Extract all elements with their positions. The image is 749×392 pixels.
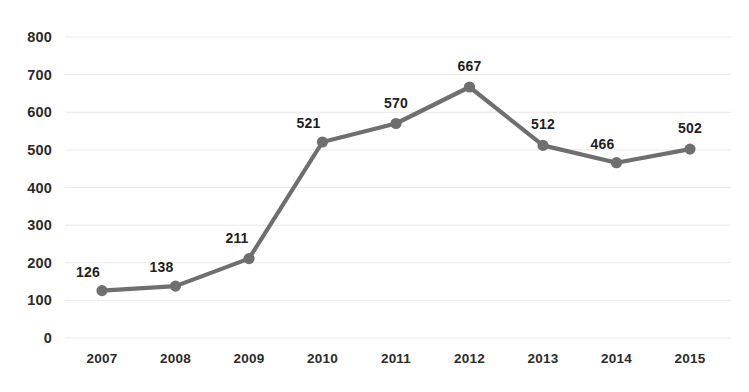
chart-plot-area xyxy=(0,0,749,392)
y-axis-tick-label: 100 xyxy=(0,293,52,308)
data-point-label: 570 xyxy=(370,96,422,110)
x-axis-tick-label: 2014 xyxy=(581,352,653,366)
gridlines xyxy=(65,37,731,338)
x-axis-tick-label: 2015 xyxy=(654,352,726,366)
x-axis-tick-label: 2012 xyxy=(434,352,506,366)
y-axis-tick-label: 600 xyxy=(0,105,52,120)
line-chart: 8007006005004003002001000 20072008200920… xyxy=(0,0,749,392)
data-point-marker xyxy=(170,281,181,292)
data-point-marker xyxy=(96,285,107,296)
data-point-marker xyxy=(537,140,548,151)
y-axis-tick-label: 0 xyxy=(0,331,52,346)
x-axis-tick-label: 2008 xyxy=(140,352,212,366)
y-axis-tick-label: 200 xyxy=(0,256,52,271)
data-point-marker xyxy=(684,144,695,155)
data-point-label: 667 xyxy=(444,59,496,73)
series-line xyxy=(102,87,690,291)
data-point-label: 466 xyxy=(577,137,629,151)
y-axis-tick-label: 700 xyxy=(0,68,52,83)
data-point-marker xyxy=(611,157,622,168)
data-point-label: 521 xyxy=(283,116,335,130)
data-point-label: 126 xyxy=(62,265,114,279)
y-axis-tick-label: 800 xyxy=(0,30,52,45)
x-axis-tick-label: 2007 xyxy=(66,352,138,366)
x-axis-tick-label: 2013 xyxy=(507,352,579,366)
y-axis-tick-label: 500 xyxy=(0,143,52,158)
data-point-label: 211 xyxy=(211,231,263,245)
data-point-marker xyxy=(390,118,401,129)
y-axis-tick-label: 400 xyxy=(0,181,52,196)
data-point-label: 138 xyxy=(136,260,188,274)
data-point-marker xyxy=(317,136,328,147)
data-point-label: 512 xyxy=(517,117,569,131)
data-point-marker xyxy=(464,81,475,92)
x-axis-tick-label: 2011 xyxy=(360,352,432,366)
x-axis-tick-label: 2010 xyxy=(287,352,359,366)
y-axis-tick-label: 300 xyxy=(0,218,52,233)
data-point-label: 502 xyxy=(664,121,716,135)
data-point-marker xyxy=(243,253,254,264)
x-axis-tick-label: 2009 xyxy=(213,352,285,366)
